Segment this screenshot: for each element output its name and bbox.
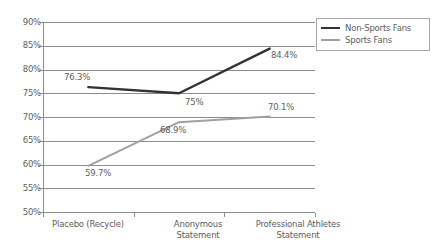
legend-swatch-icon-non-sports-fans (321, 27, 340, 29)
data-label-non-sports-fans-2: 84.4% (271, 51, 297, 60)
x-axis-label-professional-athletes-statement-line2: Statement (243, 230, 353, 241)
series-line-sports-fans (88, 117, 269, 166)
data-label-non-sports-fans-1: 75% (185, 98, 203, 107)
legend-label-sports-fans: Sports Fans (345, 35, 392, 45)
x-axis-label-anonymous-statement: Anonymous Statement (153, 219, 243, 241)
data-label-sports-fans-0: 59.7% (85, 169, 111, 178)
x-axis-label-professional-athletes-statement-line1: Professional Athletes (243, 219, 353, 230)
legend-item-non-sports-fans[interactable]: Non-Sports Fans (321, 22, 425, 34)
x-axis-label-placebo-line1: Placebo (Recycle) (40, 219, 136, 230)
x-axis-label-placebo: Placebo (Recycle) (40, 219, 136, 230)
legend-label-non-sports-fans: Non-Sports Fans (345, 23, 411, 33)
x-axis-label-professional-athletes-statement: Professional Athletes Statement (243, 219, 353, 241)
x-axis-label-anonymous-statement-line1: Anonymous (153, 219, 243, 230)
line-chart: 90% 85% 80% 75% 70% 65% 60% 55% 50% 76.3… (0, 0, 434, 250)
data-label-sports-fans-1: 68.9% (160, 126, 186, 135)
legend-item-sports-fans[interactable]: Sports Fans (321, 34, 425, 46)
series-line-non-sports-fans (88, 49, 269, 94)
x-axis-label-anonymous-statement-line2: Statement (153, 230, 243, 241)
data-label-sports-fans-2: 70.1% (268, 103, 294, 112)
data-label-non-sports-fans-0: 76.3% (64, 73, 90, 82)
legend-swatch-icon-sports-fans (321, 39, 340, 41)
legend: Non-Sports Fans Sports Fans (316, 18, 430, 51)
